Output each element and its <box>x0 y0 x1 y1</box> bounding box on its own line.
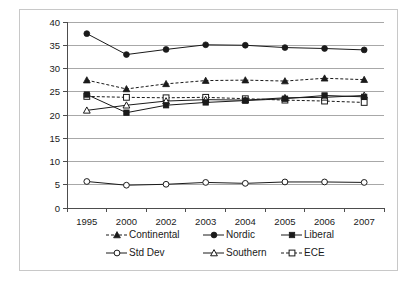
legend: ContinentalNordicLiberalStd DevSouthernE… <box>106 229 334 258</box>
legend-item-continental[interactable]: Continental <box>106 229 180 240</box>
marker-filled-square <box>322 93 327 98</box>
marker-open-circle <box>282 179 288 185</box>
marker-open-circle <box>242 180 248 186</box>
legend-item-std-dev[interactable]: Std Dev <box>106 247 165 258</box>
x-axis-ticks: 19952000200220032004200520062007 <box>67 208 384 227</box>
y-tick-label: 40 <box>49 17 60 28</box>
marker-filled-square <box>282 96 287 101</box>
marker-filled-circle <box>322 46 328 52</box>
y-tick-label: 15 <box>49 133 60 144</box>
line-chart: 0510152025303540199520002002200320042005… <box>20 10 397 270</box>
marker-filled-square <box>163 103 168 108</box>
marker-filled-square <box>84 92 89 97</box>
y-tick-label: 0 <box>55 203 60 214</box>
marker-open-circle <box>84 179 90 185</box>
marker-open-circle <box>163 181 169 187</box>
marker-filled-square <box>289 232 294 237</box>
legend-item-nordic[interactable]: Nordic <box>203 229 255 240</box>
legend-label: ECE <box>304 247 325 258</box>
series-line <box>87 34 364 55</box>
marker-open-circle <box>322 179 328 185</box>
y-tick-label: 20 <box>49 110 60 121</box>
x-tick-label: 2006 <box>314 216 335 227</box>
marker-filled-circle <box>282 45 288 51</box>
marker-filled-circle <box>124 52 130 58</box>
y-axis-ticks: 0510152025303540 <box>49 17 67 214</box>
legend-item-ece[interactable]: ECE <box>281 247 325 258</box>
marker-open-circle <box>114 250 120 256</box>
x-tick-label: 2002 <box>155 216 176 227</box>
legend-label: Std Dev <box>129 247 165 258</box>
marker-filled-circle <box>242 42 248 48</box>
y-tick-label: 25 <box>49 86 60 97</box>
marker-filled-circle <box>211 232 217 238</box>
marker-filled-circle <box>203 42 209 48</box>
marker-open-square <box>124 94 130 100</box>
marker-open-circle <box>203 180 209 186</box>
legend-label: Liberal <box>304 229 334 240</box>
y-tick-label: 5 <box>55 179 60 190</box>
marker-open-circle <box>361 180 367 186</box>
y-tick-label: 10 <box>49 156 60 167</box>
marker-filled-square <box>124 110 129 115</box>
x-tick-label: 1995 <box>76 216 97 227</box>
y-tick-label: 35 <box>49 40 60 51</box>
marker-filled-triangle <box>83 77 90 83</box>
x-tick-label: 2005 <box>274 216 295 227</box>
series-nordic <box>84 31 367 58</box>
marker-filled-square <box>361 94 366 99</box>
grid-lines <box>67 22 384 185</box>
marker-filled-circle <box>163 47 169 53</box>
legend-item-liberal[interactable]: Liberal <box>281 229 334 240</box>
marker-filled-square <box>243 98 248 103</box>
chart-frame: 0510152025303540199520002002200320042005… <box>19 9 398 271</box>
marker-filled-circle <box>84 31 90 37</box>
series-std-dev <box>84 179 367 189</box>
legend-label: Nordic <box>226 229 255 240</box>
marker-open-circle <box>124 182 130 188</box>
legend-label: Southern <box>226 247 267 258</box>
marker-filled-circle <box>361 47 367 53</box>
x-tick-label: 2000 <box>116 216 137 227</box>
x-tick-label: 2007 <box>354 216 375 227</box>
legend-item-southern[interactable]: Southern <box>203 247 267 258</box>
series-continental <box>83 75 367 92</box>
marker-open-square <box>361 100 367 106</box>
y-tick-label: 30 <box>49 63 60 74</box>
legend-label: Continental <box>129 229 180 240</box>
marker-filled-square <box>203 100 208 105</box>
marker-open-square <box>289 250 295 256</box>
x-tick-label: 2003 <box>195 216 216 227</box>
x-tick-label: 2004 <box>235 216 256 227</box>
